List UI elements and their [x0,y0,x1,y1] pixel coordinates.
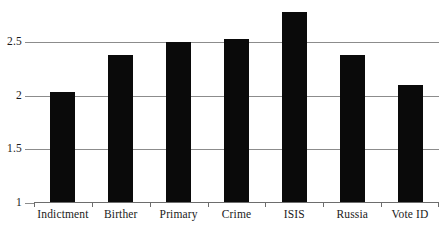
x-tick-label: Crime [222,208,252,221]
x-tick-label: Vote ID [392,208,429,221]
y-tick-label: 1 [16,197,22,209]
x-tick-label: Indictment [37,208,88,221]
y-tick-mark [25,203,34,204]
x-tick-label: Russia [336,208,368,221]
y-tick-mark [25,42,34,43]
bar [282,12,307,202]
bar [224,39,249,202]
x-tick-label: Birther [104,208,138,221]
plot-area: 2.521.51 [34,8,439,203]
bar [50,92,75,202]
y-tick-mark [25,149,34,150]
x-tick-label: Primary [160,208,198,221]
y-tick-label: 2 [16,90,22,102]
y-tick-mark [25,96,34,97]
y-tick-label: 2.5 [7,37,22,49]
bar [340,55,365,202]
y-tick-label: 1.5 [7,144,22,156]
bar [166,42,191,202]
x-axis-labels: IndictmentBirtherPrimaryCrimeISISRussiaV… [34,206,439,230]
bar [398,85,423,202]
bar-chart: 2.521.51 IndictmentBirtherPrimaryCrimeIS… [0,0,447,236]
bar [108,55,133,202]
x-axis-baseline [34,202,439,203]
x-tick-label: ISIS [284,208,305,221]
